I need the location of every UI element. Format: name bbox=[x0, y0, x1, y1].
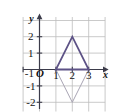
origin-label: O bbox=[36, 67, 44, 79]
x-axis-label: x bbox=[102, 69, 108, 80]
y-tick-label-1: 1 bbox=[28, 47, 34, 59]
graph-canvas: y x 2 1 -1 -2 -1 O 1 2 3 bbox=[0, 0, 113, 112]
x-tick-label-3: 3 bbox=[86, 69, 92, 81]
x-tick-label-neg1: -1 bbox=[25, 67, 34, 79]
y-tick-label-neg1: -1 bbox=[26, 80, 35, 92]
y-tick-label-neg2: -2 bbox=[26, 96, 35, 108]
x-tick-label-2: 2 bbox=[70, 69, 76, 81]
y-axis-arrow bbox=[37, 14, 43, 20]
x-tick-label-1: 1 bbox=[53, 69, 59, 81]
y-tick-label-2: 2 bbox=[28, 30, 34, 42]
coordinate-plane-figure: y x 2 1 -1 -2 -1 O 1 2 3 bbox=[0, 0, 113, 112]
y-axis-label: y bbox=[28, 13, 34, 24]
